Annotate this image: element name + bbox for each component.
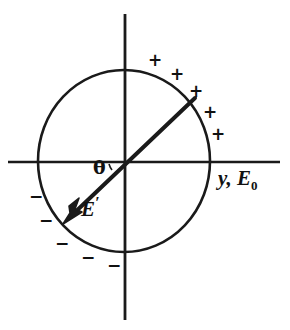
diagram-canvas — [0, 0, 290, 330]
negative-charge-sign: − — [29, 188, 43, 205]
axis-label-main: y, E — [218, 166, 251, 190]
horizontal-axis-label: y, E0 — [218, 168, 258, 192]
positive-charge-sign: + — [189, 83, 203, 100]
axis-label-subscript: 0 — [251, 178, 258, 193]
negative-charge-sign: − — [39, 212, 53, 229]
theta-label: θ — [93, 158, 106, 177]
positive-charge-sign: + — [211, 126, 225, 143]
e-prime-label: E′ — [81, 195, 100, 220]
negative-charge-sign: − — [55, 235, 69, 252]
e-prime-letter: E — [81, 197, 95, 221]
negative-charge-sign: − — [81, 249, 95, 266]
e-prime-arrowhead — [63, 198, 82, 224]
physics-diagram-figure: θ E′ y, E0 +++++−−−−− — [0, 0, 290, 330]
e-prime-mark: ′ — [95, 194, 100, 211]
negative-charge-sign: − — [107, 257, 121, 274]
theta-angle-arc — [109, 164, 112, 170]
positive-charge-sign: + — [203, 104, 217, 121]
positive-charge-sign: + — [148, 52, 162, 69]
positive-charge-sign: + — [170, 66, 184, 83]
